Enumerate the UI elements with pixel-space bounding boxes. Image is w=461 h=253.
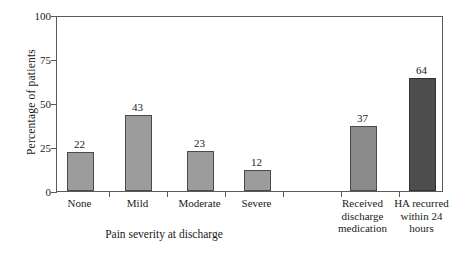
bar-value-label: 22 — [52, 139, 107, 150]
bar-value-label: 43 — [110, 102, 165, 113]
bar-chart-figure: Percentage of patients 0255075100 224323… — [0, 0, 461, 253]
bar — [125, 115, 152, 191]
y-tick-label: 50 — [0, 98, 56, 110]
bar-value-label: 37 — [335, 113, 390, 124]
bar-value-label: 23 — [172, 138, 227, 149]
x-category-label: Severe — [215, 197, 299, 210]
y-tick-label: 75 — [0, 54, 56, 66]
bar — [409, 78, 436, 191]
bar-value-label: 64 — [394, 65, 449, 76]
y-tick-mark — [51, 192, 57, 193]
bar — [350, 126, 377, 191]
bar — [67, 152, 94, 191]
bar — [187, 151, 214, 191]
bar-value-label: 12 — [229, 157, 284, 168]
y-tick-label: 25 — [0, 142, 56, 154]
x-category-label: HA recurred within 24 hours — [380, 197, 461, 235]
x-axis-title: Pain severity at discharge — [56, 228, 272, 240]
bar — [244, 170, 271, 191]
y-tick-label: 100 — [0, 10, 56, 22]
